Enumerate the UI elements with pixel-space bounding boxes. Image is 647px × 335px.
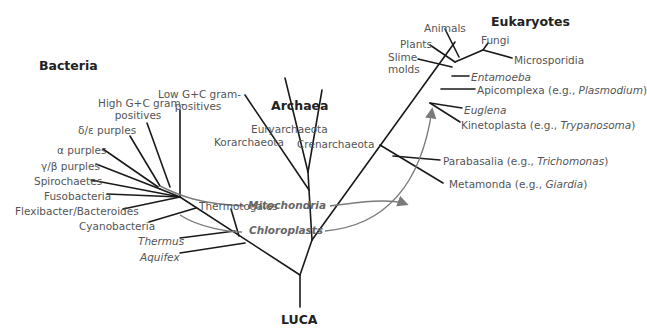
paren: ) [643, 84, 647, 96]
paren: ) [631, 119, 635, 131]
paren: ) [604, 155, 608, 167]
label-parabasalia-text: Parabasalia (e.g., [443, 155, 537, 167]
label-aquifex: Aquifex [140, 251, 180, 263]
label-kinetoplasta-example: Trypanosoma [560, 119, 631, 131]
branch-microsporidia [483, 50, 512, 58]
label-microsporidia: Microsporidia [514, 54, 584, 66]
label-metamonda-text: Metamonda (e.g., [449, 178, 545, 190]
label-parabasalia: Parabasalia (e.g., Trichomonas) [443, 155, 608, 167]
mitochondria-arrow [330, 201, 406, 206]
label-euglena: Euglena [464, 104, 506, 116]
label-euryarchaeota: Euryarchaeota [251, 123, 328, 135]
annotation-chloroplasts: Chloroplasts [249, 224, 323, 236]
label-fusobacteria: Fusobacteria [44, 190, 111, 202]
annotation-mitochondria: Mitochondria [248, 199, 326, 211]
heading-eukaryotes: Eukaryotes [491, 14, 570, 29]
label-high-gc-line2: positives [98, 109, 178, 121]
chloroplasts-arrow [325, 110, 432, 231]
label-cyanobacteria: Cyanobacteria [79, 220, 155, 232]
archaea-trunk [300, 240, 312, 275]
label-crenarchaeota: Crenarchaeota [297, 138, 374, 150]
label-metamonda: Metamonda (e.g., Giardia) [449, 178, 587, 190]
label-spirochaetes: Spirochaetes [34, 175, 102, 187]
paren: ) [583, 178, 587, 190]
label-metamonda-example: Giardia [545, 178, 583, 190]
label-fungi: Fungi [481, 34, 509, 46]
branch-thermus [180, 231, 235, 238]
label-kinetoplasta-text: Kinetoplasta (e.g., [461, 119, 560, 131]
label-plants: Plants [400, 38, 432, 50]
heading-bacteria: Bacteria [39, 58, 98, 73]
label-slime-molds: Slime molds [388, 51, 420, 75]
branch-slime-molds [418, 59, 452, 67]
branch-high-gc [147, 123, 170, 187]
label-entamoeba: Entamoeba [471, 71, 531, 83]
label-high-gc-line1: High G+C gram- [98, 97, 178, 109]
label-gamma-beta: γ/β purples [41, 160, 100, 172]
label-delta-epsilon: δ/ε purples [78, 124, 136, 136]
label-slime-line2: molds [388, 63, 420, 75]
label-thermus: Thermus [138, 235, 184, 247]
label-apicomplexa-example: Plasmodium [579, 84, 643, 96]
branch-aquifex [180, 243, 245, 253]
label-kinetoplasta: Kinetoplasta (e.g., Trypanosoma) [461, 119, 635, 131]
label-korarchaeota: Korarchaeota [214, 136, 284, 148]
heading-archaea: Archaea [271, 98, 329, 113]
label-slime-line1: Slime [388, 51, 420, 63]
archaea-inner [308, 172, 309, 190]
label-flexibacter: Flexibacter/Bacteroides [15, 205, 139, 217]
branch-gamma-beta [96, 164, 160, 189]
label-apicomplexa: Apicomplexa (e.g., Plasmodium) [477, 84, 647, 96]
label-parabasalia-example: Trichomonas [537, 155, 604, 167]
label-alpha: α purples [57, 144, 106, 156]
label-high-gc: High G+C gram- positives [98, 97, 178, 121]
label-apicomplexa-text: Apicomplexa (e.g., [477, 84, 579, 96]
heading-luca: LUCA [281, 312, 318, 327]
label-animals: Animals [424, 22, 466, 34]
